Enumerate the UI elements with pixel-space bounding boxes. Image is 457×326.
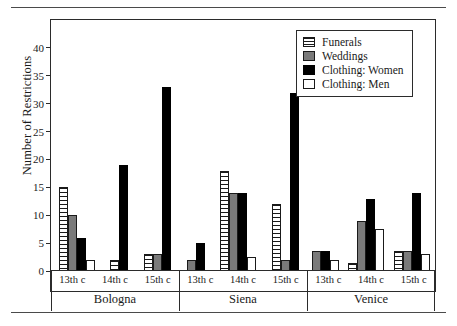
legend-label: Funerals: [322, 36, 362, 48]
x-tick-label-bologna-14th-c: 14th c: [94, 274, 137, 285]
y-tick-label: 35: [33, 70, 44, 82]
y-tick-label: 30: [33, 98, 44, 110]
legend-swatch-weddings: [303, 51, 315, 61]
legend-item-weddings: Weddings: [303, 49, 404, 63]
legend-swatch-funerals: [303, 37, 315, 47]
bar-funerals: [144, 254, 153, 271]
city-label-row: BolognaSienaVenice: [51, 292, 435, 310]
bar-weddings: [312, 251, 321, 271]
x-tick-label-siena-13th-c: 13th c: [179, 274, 222, 285]
bar-weddings: [229, 193, 238, 271]
legend-item-funerals: Funerals: [303, 35, 404, 49]
legend-label: Clothing: Men: [322, 78, 389, 90]
y-tick-label: 5: [39, 237, 45, 249]
bar-women: [162, 87, 171, 271]
bar-weddings: [153, 254, 162, 271]
legend: FuneralsWeddingsClothing: WomenClothing:…: [296, 30, 413, 97]
bar-cluster-bologna-15th-c: [144, 20, 171, 271]
group-label-bologna: Bologna: [51, 292, 179, 307]
century-label-row: 13th c14th c15th c13th c14th c15th c13th…: [51, 274, 435, 290]
legend-label: Clothing: Women: [322, 64, 404, 76]
bar-men: [421, 254, 430, 271]
legend-label: Weddings: [322, 50, 368, 62]
bar-men: [375, 229, 384, 271]
x-tick-label-bologna-13th-c: 13th c: [51, 274, 94, 285]
bar-weddings: [68, 215, 77, 271]
x-axis: 13th c14th c15th c13th c14th c15th c13th…: [51, 271, 435, 313]
group-label-siena: Siena: [179, 292, 307, 307]
bar-funerals: [272, 204, 281, 271]
legend-item-women: Clothing: Women: [303, 63, 404, 77]
bar-weddings: [357, 221, 366, 271]
bar-weddings: [403, 251, 412, 271]
bar-cluster-siena-13th-c: [187, 20, 205, 271]
bar-women: [412, 193, 421, 271]
legend-item-men: Clothing: Men: [303, 77, 404, 91]
bar-cluster-bologna-14th-c: [110, 20, 128, 271]
x-tick-label-bologna-15th-c: 15th c: [136, 274, 179, 285]
y-tick-label: 40: [33, 42, 44, 54]
legend-swatch-women: [303, 65, 315, 75]
x-tick-label-venice-13th-c: 13th c: [307, 274, 350, 285]
bar-group-bologna: [51, 20, 179, 271]
y-tick-label: 15: [33, 181, 44, 193]
bar-women: [119, 165, 128, 271]
bar-group-siena: [179, 20, 307, 271]
bar-women: [366, 199, 375, 272]
bar-funerals: [59, 187, 68, 271]
legend-swatch-men: [303, 79, 315, 89]
figure: Number of Restrictions 0510152025303540 …: [0, 0, 457, 326]
y-tick-label: 0: [39, 265, 45, 277]
y-tick-label: 20: [33, 153, 44, 165]
bar-cluster-siena-14th-c: [220, 20, 256, 271]
x-tick-label-venice-15th-c: 15th c: [392, 274, 435, 285]
bar-women: [77, 238, 86, 271]
bar-funerals: [220, 171, 229, 271]
y-tick-label: 10: [33, 209, 44, 221]
y-tick-label: 25: [33, 126, 44, 138]
x-tick-label-siena-15th-c: 15th c: [264, 274, 307, 285]
y-axis: 0510152025303540: [0, 19, 50, 292]
bar-women: [321, 251, 330, 271]
bar-men: [247, 257, 256, 271]
group-label-venice: Venice: [307, 292, 435, 307]
top-rule: [11, 7, 446, 8]
bar-women: [196, 243, 205, 271]
x-tick-label-siena-14th-c: 14th c: [222, 274, 265, 285]
bar-funerals: [394, 251, 403, 271]
bar-women: [290, 93, 299, 271]
bar-cluster-bologna-13th-c: [59, 20, 95, 271]
x-tick-label-venice-14th-c: 14th c: [350, 274, 393, 285]
bar-women: [238, 193, 247, 271]
